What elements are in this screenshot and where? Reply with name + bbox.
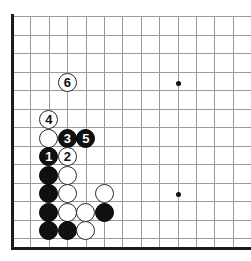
star-point-upper-right <box>176 81 181 86</box>
black-stone-plain-c2r9[interactable] <box>39 166 58 185</box>
black-stone-move-5[interactable]: 5 <box>76 129 95 148</box>
stone-move-number: 1 <box>45 150 52 163</box>
stone-move-number: 4 <box>45 113 52 126</box>
white-stone-plain-c4r11[interactable] <box>76 203 95 222</box>
stone-move-number: 5 <box>82 131 89 144</box>
black-stone-move-3[interactable]: 3 <box>58 129 77 148</box>
white-stone-plain-c3r10[interactable] <box>58 184 77 203</box>
stone-move-number: 2 <box>64 150 71 163</box>
black-stone-plain-c2r10[interactable] <box>39 184 58 203</box>
go-board-diagram: 643512 <box>0 0 251 261</box>
black-stone-plain-c5r11[interactable] <box>95 203 114 222</box>
star-point-lower-right <box>176 192 181 197</box>
white-stone-move-2[interactable]: 2 <box>58 147 77 166</box>
stone-move-number: 6 <box>64 76 71 89</box>
white-stone-move-6[interactable]: 6 <box>58 73 77 92</box>
white-stone-plain-c3r11[interactable] <box>58 203 77 222</box>
white-stone-plain-c5r10[interactable] <box>95 184 114 203</box>
black-stone-plain-c2r12[interactable] <box>39 221 58 240</box>
white-stone-plain-c4r12[interactable] <box>76 221 95 240</box>
black-stone-plain-c2r11[interactable] <box>39 203 58 222</box>
board-stones: 643512 <box>0 0 251 261</box>
stone-move-number: 3 <box>64 131 71 144</box>
white-stone-plain-c3r9[interactable] <box>58 166 77 185</box>
white-stone-move-4[interactable]: 4 <box>39 110 58 129</box>
black-stone-move-1[interactable]: 1 <box>39 147 58 166</box>
white-stone-plain-c2r7[interactable] <box>39 129 58 148</box>
black-stone-plain-c3r12[interactable] <box>58 221 77 240</box>
